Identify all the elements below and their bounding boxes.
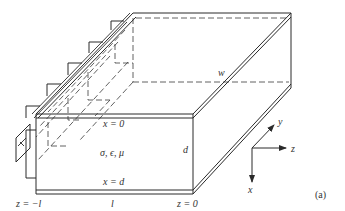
axis-label-x: x [247, 184, 253, 195]
back-frame [133, 13, 291, 84]
hidden-edges [36, 18, 289, 160]
diagram-canvas: x = 0 σ, ϵ, μ x = d d w l z = −l z = 0 y… [0, 0, 345, 211]
coordinate-axes [252, 125, 286, 182]
label-width: w [218, 67, 225, 78]
label-right-end: z = 0 [176, 198, 198, 209]
label-left-end: z = −l [15, 198, 41, 209]
label-length: l [111, 198, 114, 209]
label-medium: σ, ϵ, μ [100, 147, 124, 158]
figure-tag: (a) [315, 189, 326, 201]
top-plate [36, 13, 291, 118]
axis-label-y: y [277, 116, 283, 127]
label-bottom-plate: x = d [102, 176, 125, 187]
y-axis-arrow [252, 125, 274, 148]
label-top-plate: x = 0 [102, 118, 124, 129]
label-height: d [183, 144, 189, 155]
bottom-plate [36, 84, 291, 194]
feed-loop [16, 124, 36, 178]
axis-label-z: z [290, 143, 295, 154]
